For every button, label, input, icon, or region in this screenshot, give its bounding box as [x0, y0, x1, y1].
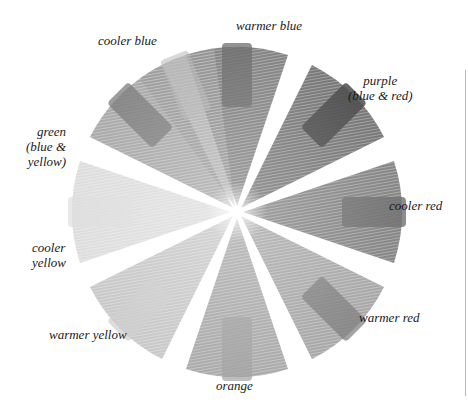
label-line: orange [216, 378, 253, 393]
label-purple: purple (blue & red) [348, 73, 413, 103]
label-warmer-red: warmer red [359, 310, 420, 325]
label-line: (blue & [20, 139, 66, 154]
label-cooler-red: cooler red [389, 198, 442, 213]
label-line: cooler [32, 240, 66, 255]
label-line: (blue & red) [348, 88, 413, 103]
label-line: cooler red [389, 198, 442, 213]
label-warmer-blue: warmer blue [236, 18, 302, 33]
label-line: yellow) [20, 154, 66, 169]
label-cooler-yellow: cooler yellow [32, 240, 66, 270]
label-line: green [20, 124, 66, 139]
label-green: green (blue & yellow) [20, 124, 66, 169]
label-line: warmer yellow [49, 327, 127, 342]
label-orange: orange [216, 378, 253, 393]
color-wheel-figure: cooler blue warmer blue purple (blue & r… [0, 0, 468, 405]
page-edge-line [465, 70, 466, 396]
label-line: warmer red [359, 310, 420, 325]
label-line: purple [348, 73, 413, 88]
label-warmer-yellow: warmer yellow [49, 327, 127, 342]
label-cooler-blue: cooler blue [98, 33, 157, 48]
label-line: warmer blue [236, 18, 302, 33]
label-line: yellow [32, 255, 66, 270]
label-line: cooler blue [98, 33, 157, 48]
